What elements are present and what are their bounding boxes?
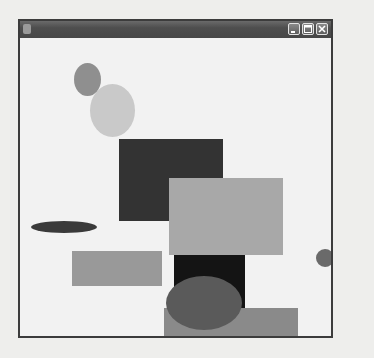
ellipse-shape — [166, 276, 242, 330]
close-button[interactable] — [316, 23, 328, 35]
minimize-button[interactable] — [288, 23, 300, 35]
rectangle-shape — [169, 178, 283, 255]
app-icon[interactable] — [23, 24, 31, 34]
app-window — [18, 19, 333, 338]
rectangle-shape — [72, 251, 162, 286]
ellipse-shape — [316, 249, 331, 267]
ellipse-shape — [74, 63, 101, 96]
close-icon — [317, 24, 327, 34]
maximize-icon — [303, 24, 313, 34]
ellipse-shape — [31, 221, 97, 233]
drawing-canvas[interactable] — [20, 38, 331, 336]
maximize-button[interactable] — [302, 23, 314, 35]
minimize-icon — [289, 24, 299, 34]
ellipse-shape — [90, 84, 135, 137]
title-bar[interactable] — [20, 21, 331, 38]
